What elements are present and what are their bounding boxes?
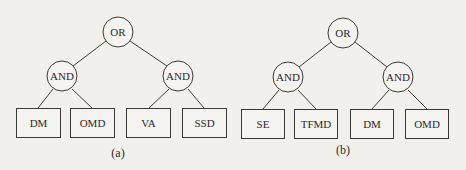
leaf-dm-b: DM xyxy=(351,110,394,139)
caption-a: (a) xyxy=(111,146,124,160)
edge-or-to-and-right-a xyxy=(130,41,167,66)
and-node-label: AND xyxy=(386,71,410,83)
leaf-dm-a: DM xyxy=(17,109,61,138)
leaf-label: OMD xyxy=(414,118,440,130)
edge-and-left-to-se-b xyxy=(263,90,279,109)
or-node-b: OR xyxy=(328,18,358,48)
edge-or-to-and-left-a xyxy=(73,41,106,66)
leaf-label: TFMD xyxy=(301,118,332,130)
tree-a: OR AND AND DM OMD VA SSD (a) xyxy=(17,17,227,160)
leaf-label: SE xyxy=(257,118,270,130)
tree-b: OR AND AND SE TFMD DM OMD (b) xyxy=(242,18,449,157)
caption-b: (b) xyxy=(336,143,350,157)
leaf-label: VA xyxy=(141,117,156,129)
and-node-label: AND xyxy=(50,70,74,82)
or-node-label: OR xyxy=(335,27,351,39)
and-node-label: AND xyxy=(276,71,300,83)
and-node-right-a: AND xyxy=(163,61,193,91)
or-node-a: OR xyxy=(103,17,133,47)
edge-and-right-to-omd-b xyxy=(408,90,427,109)
leaf-label: OMD xyxy=(80,117,106,129)
edge-and-left-to-tfmd-b xyxy=(298,90,316,109)
leaf-tfmd-b: TFMD xyxy=(295,110,338,139)
leaf-label: DM xyxy=(363,118,381,130)
and-node-left-a: AND xyxy=(47,61,77,91)
edge-and-left-to-dm-a xyxy=(38,89,53,108)
leaf-omd-b: OMD xyxy=(406,110,449,139)
and-node-left-b: AND xyxy=(273,62,303,92)
leaf-va-a: VA xyxy=(127,109,171,138)
edge-or-to-and-left-b xyxy=(299,42,331,67)
attack-tree-figure: OR AND AND DM OMD VA SSD (a) xyxy=(0,0,466,170)
diagram-canvas: OR AND AND DM OMD VA SSD (a) xyxy=(0,0,466,170)
leaf-se-b: SE xyxy=(242,110,285,139)
edge-and-right-to-ssd-a xyxy=(188,89,204,108)
leaf-label: DM xyxy=(30,117,48,129)
edge-and-right-to-va-a xyxy=(149,89,169,108)
leaf-ssd-a: SSD xyxy=(183,109,227,138)
or-node-label: OR xyxy=(110,26,126,38)
edge-or-to-and-right-b xyxy=(355,42,387,67)
and-node-label: AND xyxy=(166,70,190,82)
leaf-label: SSD xyxy=(194,117,214,129)
edge-and-right-to-dm-b xyxy=(372,90,389,109)
leaf-omd-a: OMD xyxy=(71,109,115,138)
edge-and-left-to-omd-a xyxy=(72,89,92,108)
and-node-right-b: AND xyxy=(383,62,413,92)
